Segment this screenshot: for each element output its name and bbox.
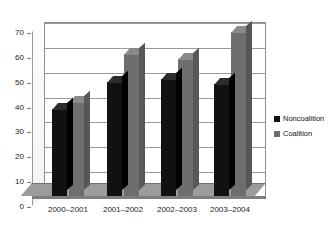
bar-noncoalition-2001–2002[interactable] — [107, 82, 122, 196]
bar-noncoalition-2003–2004[interactable] — [214, 84, 229, 196]
y-tick-label-40: 40 — [15, 104, 24, 112]
gridline-70 — [45, 23, 265, 24]
y-tick-label-60: 60 — [15, 54, 24, 62]
legend-item-coalition[interactable]: Coalition — [274, 128, 324, 139]
bar-side — [84, 90, 90, 190]
bar-side — [122, 70, 128, 190]
bar-face — [107, 82, 122, 196]
y-tick-mark-40 — [27, 108, 31, 109]
y-tick-mark-30 — [27, 132, 31, 133]
bar-side — [229, 73, 235, 190]
legend-swatch-noncoalition — [274, 116, 280, 122]
chart-legend: Noncoalition Coalition — [274, 113, 324, 143]
bar-noncoalition-2000–2001[interactable] — [52, 109, 67, 196]
bar-face — [214, 84, 229, 196]
bar-side — [139, 43, 145, 190]
bar-face — [52, 109, 67, 196]
bar-side — [176, 68, 182, 190]
x-tick-label-1: 2001–2002 — [92, 205, 154, 214]
y-tick-label-20: 20 — [15, 153, 24, 161]
y-tick-mark-60 — [27, 58, 31, 59]
y-tick-mark-20 — [27, 157, 31, 158]
chart-side-wall — [32, 22, 44, 206]
y-axis: 010203040506070 — [0, 0, 30, 233]
y-tick-mark-50 — [27, 83, 31, 84]
y-tick-label-50: 50 — [15, 79, 24, 87]
bar-side — [246, 21, 252, 190]
y-tick-label-0: 0 — [20, 203, 24, 211]
x-tick-label-0: 2000–2001 — [37, 205, 99, 214]
y-tick-label-10: 10 — [15, 178, 24, 186]
bar-chart: 010203040506070 2000–20012001–20022002–2… — [0, 0, 334, 233]
bar-face — [161, 79, 176, 196]
bar-noncoalition-2002–2003[interactable] — [161, 79, 176, 196]
legend-label-coalition: Coalition — [283, 128, 312, 139]
chart-floor-front — [32, 196, 266, 199]
bar-side — [193, 48, 199, 190]
y-tick-label-30: 30 — [15, 128, 24, 136]
bar-side — [67, 98, 73, 190]
y-tick-mark-0 — [27, 207, 31, 208]
legend-swatch-coalition — [274, 131, 280, 137]
legend-label-noncoalition: Noncoalition — [283, 113, 324, 124]
x-tick-label-3: 2003–2004 — [199, 205, 261, 214]
legend-item-noncoalition[interactable]: Noncoalition — [274, 113, 324, 124]
y-tick-label-70: 70 — [15, 29, 24, 37]
y-tick-mark-70 — [27, 33, 31, 34]
